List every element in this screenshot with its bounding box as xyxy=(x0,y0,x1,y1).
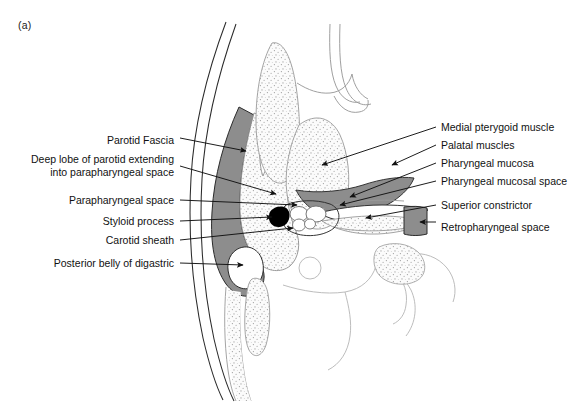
label-carotid-sheath: Carotid sheath xyxy=(106,234,174,247)
label-posterior-belly-digastric: Posterior belly of digastric xyxy=(54,257,174,270)
skull-base-outline xyxy=(297,24,371,112)
label-parotid-fascia: Parotid Fascia xyxy=(107,134,174,147)
label-deep-lobe-parotid: Deep lobe of parotid extending into para… xyxy=(31,153,174,178)
label-styloid-process: Styloid process xyxy=(103,215,174,228)
label-superior-constrictor: Superior constrictor xyxy=(441,199,532,212)
label-pharyngeal-mucosa: Pharyngeal mucosa xyxy=(441,157,534,170)
figure-container: (a) xyxy=(0,0,579,405)
label-retropharyngeal-space: Retropharyngeal space xyxy=(441,221,550,234)
label-palatal-muscles: Palatal muscles xyxy=(441,139,515,152)
leader-palatal-muscles xyxy=(392,145,436,165)
label-parapharyngeal-space: Parapharyngeal space xyxy=(69,194,174,207)
label-medial-pterygoid-muscle: Medial pterygoid muscle xyxy=(441,121,554,134)
vertebral-body-outline xyxy=(283,254,455,370)
prevertebral-muscles xyxy=(374,244,425,285)
sternocleidomastoid-strips xyxy=(225,278,270,401)
label-pharyngeal-mucosal-space: Pharyngeal mucosal space xyxy=(441,175,567,188)
